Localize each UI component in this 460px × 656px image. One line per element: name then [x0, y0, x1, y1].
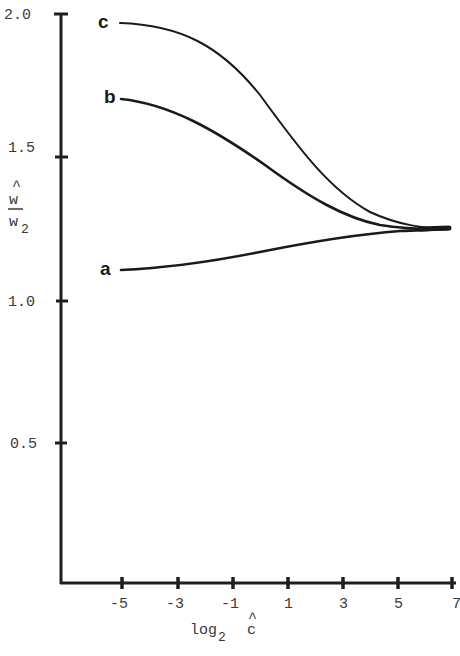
- x-axis-subscript: 2: [218, 630, 226, 645]
- x-axis-var: c: [247, 622, 256, 639]
- curves: [120, 23, 449, 270]
- x-tick-label--3: -3: [166, 596, 184, 613]
- y-tick-label-1.5: 1.5: [8, 140, 35, 157]
- y-tick-label-2.0: 2.0: [4, 7, 31, 24]
- x-axis-title: log 2 ^ c: [190, 610, 257, 645]
- curve-b: [121, 99, 448, 229]
- x-tick-label-1: 1: [284, 596, 293, 613]
- x-tick-label-3: 3: [339, 596, 348, 613]
- y-axis-denominator: w: [9, 214, 18, 231]
- x-tick-label--5: -5: [110, 596, 128, 613]
- y-tick-label-0.5: 0.5: [10, 436, 37, 453]
- chart: 2.0 1.5 1.0 0.5 ^ w w 2 -5 -3 -1 1 3 5 7…: [0, 0, 460, 656]
- curve-label-a: a: [100, 258, 111, 279]
- y-tick-label-1.0: 1.0: [8, 294, 35, 311]
- y-axis-numerator: w: [9, 192, 18, 209]
- x-tick-label-7: 7: [452, 596, 460, 613]
- curve-c: [120, 23, 448, 229]
- curve-label-c: c: [98, 11, 109, 32]
- y-axis-subscript: 2: [21, 222, 29, 237]
- curve-convergence-end: [420, 228, 449, 229]
- x-tick-label-5: 5: [394, 596, 403, 613]
- curve-a: [121, 229, 448, 270]
- x-axis-main: log: [190, 622, 217, 639]
- x-tick-label--1: -1: [221, 596, 239, 613]
- curve-label-b: b: [104, 86, 116, 107]
- y-axis-title: ^ w w 2: [8, 178, 29, 237]
